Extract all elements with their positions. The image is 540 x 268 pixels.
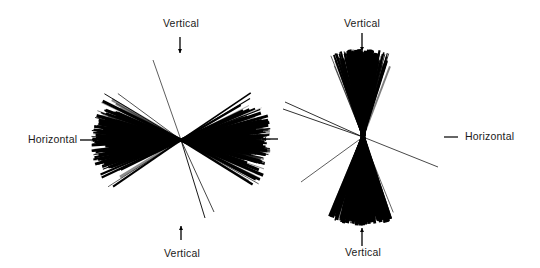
left-bottom-vertical-label: Vertical [164, 247, 200, 259]
right-bottom-vertical-label: Vertical [345, 246, 381, 258]
left-bottom-arrow-icon-head [179, 226, 183, 230]
left-top-vertical-label: Vertical [163, 17, 199, 29]
orientation-rose-diagrams: Vertical Vertical Horizontal Vertical Ve… [0, 0, 540, 268]
right-bottom-arrow-icon-head [360, 228, 364, 232]
left-horizontal-label: Horizontal [28, 133, 77, 145]
right-top-vertical-label: Vertical [344, 17, 380, 29]
right-horizontal-label: Horizontal [465, 130, 514, 142]
rose-diagram-rays [0, 0, 540, 268]
left-top-arrow-icon-head [178, 49, 182, 53]
